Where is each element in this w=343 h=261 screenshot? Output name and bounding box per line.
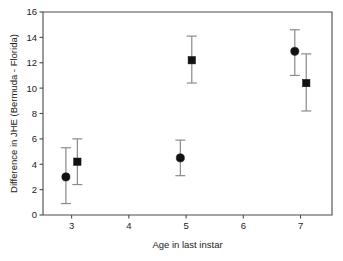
x-tick-label: 6 [241, 220, 246, 231]
plot-frame [43, 12, 332, 215]
y-tick-label: 6 [32, 133, 37, 144]
chart-figure: 0246810121416 34567 Difference in JHE (B… [0, 0, 343, 261]
y-tick-label: 16 [26, 6, 37, 17]
y-tick-label: 2 [32, 184, 37, 195]
data-point-circle [62, 173, 70, 181]
data-point-square [303, 79, 310, 86]
data-point-circle [291, 47, 299, 55]
data-point-square [188, 57, 195, 64]
series-circle [61, 30, 300, 204]
plot-border [43, 12, 332, 215]
y-tick-label: 14 [26, 32, 37, 43]
y-tick-label: 8 [32, 108, 37, 119]
y-tick-label: 4 [32, 159, 37, 170]
y-tick-label: 12 [26, 57, 37, 68]
scatter-plot: 0246810121416 34567 Difference in JHE (B… [0, 0, 343, 261]
x-tick-label: 4 [126, 220, 131, 231]
x-tick-label: 5 [183, 220, 188, 231]
x-tick-label: 3 [69, 220, 74, 231]
y-tick-label: 0 [32, 209, 37, 220]
x-tick-label: 7 [298, 220, 303, 231]
data-point-square [74, 158, 81, 165]
y-axis-title: Difference in JHE (Bermuda - Florida) [8, 34, 19, 193]
x-axis-title: Age in last instar [152, 239, 222, 250]
data-point-circle [176, 154, 184, 162]
x-axis-ticks: 34567 [69, 215, 303, 231]
series-square [72, 36, 311, 184]
y-tick-label: 10 [26, 83, 37, 94]
y-axis-ticks: 0246810121416 [26, 6, 43, 220]
data-series-layer [61, 30, 311, 204]
